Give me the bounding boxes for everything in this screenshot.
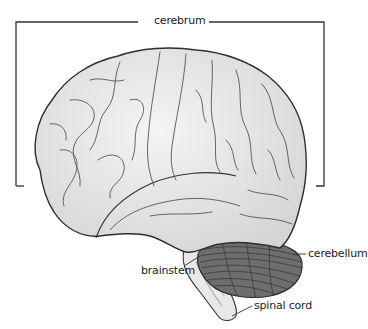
brain-diagram: [0, 0, 368, 329]
cerebrum: [35, 48, 306, 252]
label-spinal-cord: spinal cord: [254, 299, 312, 312]
label-brainstem: brainstem: [141, 264, 195, 277]
label-cerebrum: cerebrum: [150, 14, 209, 27]
label-cerebellum: cerebellum: [308, 247, 367, 260]
